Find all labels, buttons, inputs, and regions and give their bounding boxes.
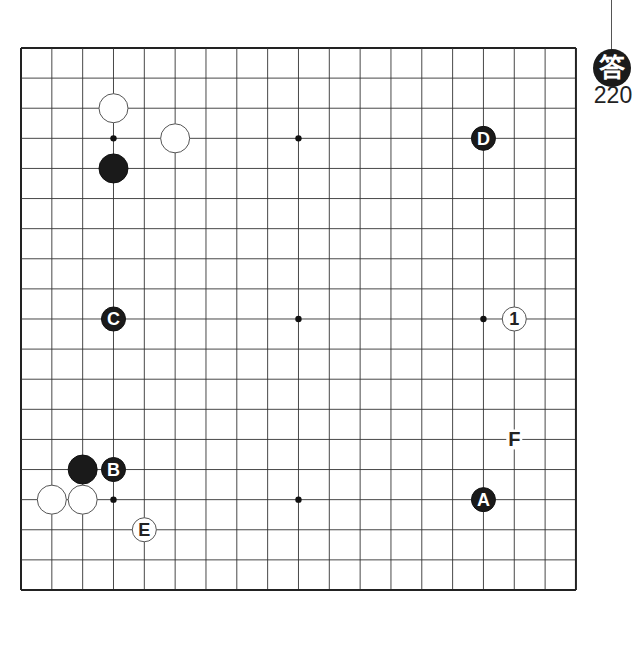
star-point [110, 496, 116, 502]
black-stone [99, 154, 128, 183]
stone-label: D [477, 129, 490, 149]
white-stone [161, 124, 190, 153]
black-stone [68, 455, 97, 484]
white-stone [68, 485, 97, 514]
star-point [110, 135, 116, 141]
point-label-f: F [508, 428, 520, 450]
white-stone [99, 94, 128, 123]
star-point [295, 496, 301, 502]
stone-label: 1 [509, 309, 519, 329]
stone-label: B [107, 460, 120, 480]
star-point [295, 135, 301, 141]
stone-label: A [477, 490, 490, 510]
star-point [295, 316, 301, 322]
white-stone [37, 485, 66, 514]
star-point [480, 316, 486, 322]
stone-label: C [107, 309, 120, 329]
stone-label: E [138, 520, 150, 540]
go-board: FDC1BEA [0, 0, 637, 655]
